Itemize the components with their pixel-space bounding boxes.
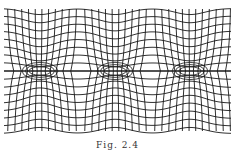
horizontal-line: [4, 24, 231, 31]
vertical-line: [121, 9, 125, 131]
vertical-line: [35, 9, 37, 131]
vertical-line: [15, 9, 21, 131]
horizontal-line: [4, 95, 231, 103]
vertical-field-lines: [8, 9, 231, 131]
vertical-line: [45, 9, 48, 131]
vertical-line: [210, 9, 216, 131]
horizontal-line: [4, 9, 231, 15]
horizontal-line: [4, 88, 231, 95]
figure-caption: Fig. 2.4: [0, 140, 235, 150]
vertical-line: [140, 9, 146, 131]
vertical-line: [217, 9, 223, 131]
horizontal-line: [4, 119, 231, 126]
vertical-line: [71, 9, 77, 131]
vertical-line: [117, 9, 119, 131]
vertical-line: [155, 9, 161, 131]
vertical-line: [85, 9, 91, 131]
vertical-line: [105, 9, 109, 131]
vertical-line: [162, 9, 168, 131]
horizontal-line: [4, 39, 231, 47]
horizontal-line: [4, 111, 231, 118]
vertical-line: [193, 9, 195, 131]
vertical-line: [8, 9, 14, 131]
vertical-line: [225, 9, 230, 131]
horizontal-line: [4, 47, 231, 54]
horizontal-line: [4, 31, 231, 39]
vertical-line: [182, 9, 185, 131]
vertical-line: [63, 9, 69, 131]
horizontal-line: [4, 103, 231, 111]
vertical-line: [41, 9, 42, 131]
horizontal-line: [4, 16, 231, 23]
vertical-line: [112, 9, 113, 131]
horizontal-line: [4, 127, 231, 133]
field-grid-diagram: [0, 0, 235, 140]
